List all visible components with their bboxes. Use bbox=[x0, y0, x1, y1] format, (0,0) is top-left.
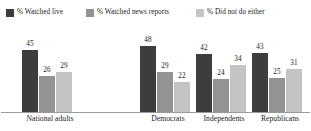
bar-item: 25 bbox=[269, 28, 285, 112]
bar-value-label: 42 bbox=[200, 45, 207, 52]
bar-did-not-do-either bbox=[286, 69, 302, 112]
bar-item: 22 bbox=[174, 28, 190, 112]
legend-item-watched-live: % Watched live bbox=[6, 6, 63, 20]
bar-item: 45 bbox=[22, 28, 38, 112]
legend-item-label: % Watched news reports bbox=[97, 9, 169, 16]
bar-value-label: 22 bbox=[178, 73, 185, 80]
bar-item: 42 bbox=[196, 28, 212, 112]
bar-value-label: 26 bbox=[43, 67, 50, 74]
bar-item: 29 bbox=[157, 28, 173, 112]
bar-value-label: 25 bbox=[273, 69, 280, 76]
bar-value-label: 29 bbox=[60, 63, 67, 70]
x-axis-label-national-adults: National adults bbox=[6, 115, 94, 123]
bar-watched-news-reports bbox=[39, 76, 55, 112]
bar-value-label: 24 bbox=[217, 70, 224, 77]
bar-item: 43 bbox=[252, 28, 268, 112]
bar-watched-live bbox=[196, 54, 212, 112]
bar-watched-live bbox=[22, 50, 38, 112]
bar-value-label: 29 bbox=[161, 63, 168, 70]
chart-legend: % Watched live % Watched news reports % … bbox=[0, 6, 311, 20]
bar-watched-news-reports bbox=[269, 78, 285, 112]
bar-value-label: 43 bbox=[256, 44, 263, 51]
bar-item: 31 bbox=[286, 28, 302, 112]
legend-swatch-icon bbox=[6, 9, 14, 17]
bar-item: 48 bbox=[140, 28, 156, 112]
bar-watched-news-reports bbox=[157, 72, 173, 112]
bar-value-label: 45 bbox=[26, 41, 33, 48]
bar-item: 26 bbox=[39, 28, 55, 112]
legend-item-label: % Watched live bbox=[17, 9, 63, 16]
bar-item: 29 bbox=[56, 28, 72, 112]
bar-value-label: 31 bbox=[290, 60, 297, 67]
legend-item-label: % Did not do either bbox=[207, 9, 265, 16]
bar-did-not-do-either bbox=[230, 65, 246, 112]
legend-item-watched-news-reports: % Watched news reports bbox=[86, 6, 169, 20]
grouped-bar-chart: % Watched live % Watched news reports % … bbox=[0, 0, 311, 131]
bar-item: 24 bbox=[213, 28, 229, 112]
legend-item-did-not-do-either: % Did not do either bbox=[196, 6, 265, 20]
bar-did-not-do-either bbox=[174, 82, 190, 112]
x-axis-label-republicans: Republicans bbox=[236, 115, 311, 123]
bar-value-label: 34 bbox=[234, 56, 241, 63]
bar-did-not-do-either bbox=[56, 72, 72, 112]
bar-value-label: 48 bbox=[144, 37, 151, 44]
plot-area: 45 26 29 48 29 bbox=[0, 28, 311, 113]
bar-item: 34 bbox=[230, 28, 246, 112]
x-axis-category-labels: National adults Democrats Independents R… bbox=[0, 115, 311, 129]
legend-swatch-icon bbox=[86, 9, 94, 17]
legend-swatch-icon bbox=[196, 9, 204, 17]
bar-watched-news-reports bbox=[213, 79, 229, 112]
x-axis-baseline bbox=[1, 112, 310, 113]
bar-watched-live bbox=[252, 53, 268, 112]
bar-watched-live bbox=[140, 46, 156, 112]
